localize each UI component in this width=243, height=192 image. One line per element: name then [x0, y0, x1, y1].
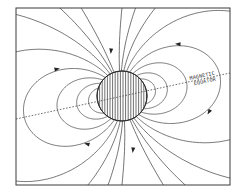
earth-sphere — [97, 71, 147, 121]
equator-label: MAGNETIC EQUATOR — [189, 70, 217, 87]
magnetic-field-diagram: MAGNETIC EQUATOR — [0, 0, 243, 192]
field-direction-arrow-icon — [109, 48, 113, 54]
field-direction-arrow-icon — [131, 147, 136, 153]
field-direction-arrow-icon — [206, 109, 212, 116]
